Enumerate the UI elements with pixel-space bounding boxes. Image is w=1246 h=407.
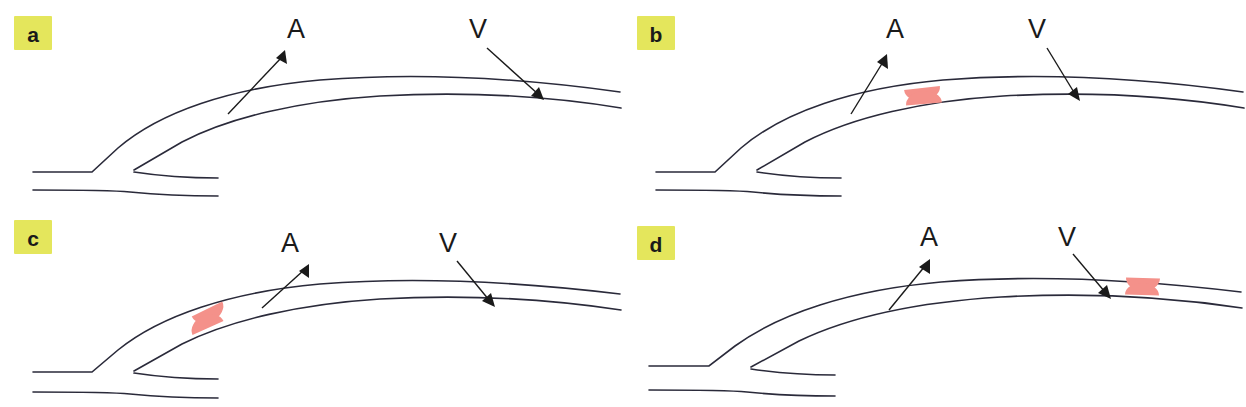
panel-d: d A V: [623, 204, 1246, 407]
plaque-group: [1125, 277, 1160, 295]
figure-root: a A V b: [0, 0, 1246, 407]
artery-label: A: [281, 228, 299, 258]
artery-label: A: [920, 222, 938, 252]
panel-b: b A V: [623, 0, 1246, 203]
vein-label: V: [1058, 222, 1076, 252]
panel-a: a A V: [0, 0, 623, 203]
panel-background: [0, 0, 623, 203]
panel-c-diagram: c A V: [0, 204, 623, 407]
panel-b-diagram: b A V: [623, 0, 1246, 203]
vein-label: V: [439, 228, 457, 258]
panel-badge-label: b: [650, 23, 663, 46]
panel-badge-label: a: [27, 23, 39, 46]
panel-a-diagram: a A V: [0, 0, 623, 203]
panel-d-diagram: d A V: [623, 204, 1246, 407]
panel-c: c A V: [0, 204, 623, 407]
vein-label: V: [1028, 14, 1046, 44]
artery-label: A: [886, 14, 904, 44]
panel-badge-label: d: [650, 233, 663, 256]
artery-label: A: [287, 14, 305, 44]
panel-badge-label: c: [27, 227, 39, 250]
vein-label: V: [469, 14, 487, 44]
